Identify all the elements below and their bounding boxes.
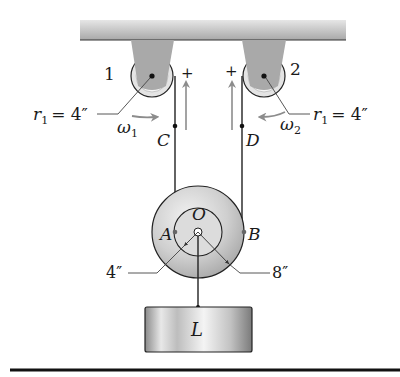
point-a-label: A	[158, 224, 172, 244]
point-d-dot	[240, 124, 245, 129]
ceiling	[80, 20, 346, 40]
point-d-label: D	[245, 130, 260, 150]
point-b-dot	[242, 230, 247, 235]
omega-1-label: ω1	[117, 117, 138, 140]
point-a-dot	[173, 230, 178, 235]
load-label: L	[190, 319, 203, 340]
pulley-system-diagram: 1 2 + + r1= 4″ r1= 4″ ω1 ω2 C D O A B 4″…	[0, 0, 400, 377]
pulley-2-number: 2	[290, 59, 301, 79]
plus-sign-d: +	[225, 62, 238, 80]
center-o-label: O	[192, 204, 206, 224]
pulley-1-number: 1	[104, 64, 115, 84]
pulley-2-radius-label: r1= 4″	[313, 104, 368, 127]
point-c-dot	[173, 124, 178, 129]
omega-1-arrow-icon	[132, 116, 155, 117]
pulley-2-axle	[261, 73, 266, 78]
point-b-label: B	[247, 224, 261, 244]
plus-sign-c: +	[181, 64, 194, 82]
omega-2-label: ω2	[280, 114, 301, 137]
pulley-1-radius-label: r1= 4″	[33, 104, 88, 127]
pulley-1	[131, 40, 174, 97]
inner-radius-label: 4″	[106, 263, 122, 282]
pulley-1-axle	[149, 73, 154, 78]
point-c-label: C	[157, 130, 170, 150]
outer-radius-leader	[229, 264, 270, 273]
pulley-2	[242, 40, 286, 97]
outer-radius-label: 8″	[272, 263, 288, 282]
